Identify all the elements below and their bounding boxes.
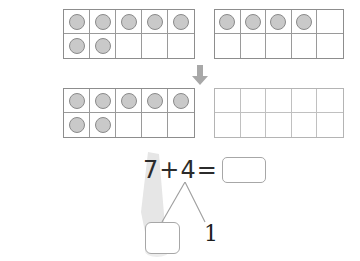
ten-frame-cell[interactable] xyxy=(90,89,116,113)
ten-frame-cell[interactable] xyxy=(215,10,241,34)
equation-sum-input[interactable] xyxy=(222,157,266,183)
counter-chip xyxy=(270,14,286,30)
arrow-down-icon xyxy=(190,64,210,86)
ten-frame-cell[interactable] xyxy=(266,89,292,113)
ten-frame-cell[interactable] xyxy=(90,113,116,137)
counter-chip xyxy=(69,93,85,109)
ten-frame-bottom-right[interactable] xyxy=(214,88,344,138)
ten-frame-cell[interactable] xyxy=(116,10,142,34)
ten-frame-cell[interactable] xyxy=(116,113,142,137)
ten-frame-cell[interactable] xyxy=(116,34,142,58)
counter-chip xyxy=(95,14,111,30)
ten-frame-cell[interactable] xyxy=(64,34,90,58)
equation-plus-sign: + xyxy=(159,158,179,182)
ten-frame-cell[interactable] xyxy=(292,89,318,113)
ten-frame-top-right[interactable] xyxy=(214,9,344,59)
worksheet-canvas: 7 + 4 = 1 xyxy=(0,0,360,261)
counter-chip xyxy=(69,117,85,133)
ten-frame-cell[interactable] xyxy=(64,113,90,137)
ten-frame-cell[interactable] xyxy=(266,113,292,137)
counter-chip xyxy=(69,38,85,54)
ten-frame-cell[interactable] xyxy=(168,34,194,58)
counter-chip xyxy=(147,93,163,109)
ten-frame-cell[interactable] xyxy=(90,10,116,34)
ten-frame-bottom-left[interactable] xyxy=(63,88,195,138)
counter-chip xyxy=(121,93,137,109)
counter-chip xyxy=(95,93,111,109)
ten-frame-cell[interactable] xyxy=(241,10,267,34)
ten-frame-cell[interactable] xyxy=(142,34,168,58)
equation-addend-1: 7 xyxy=(143,158,158,182)
ten-frame-cell[interactable] xyxy=(266,10,292,34)
ten-frame-cell[interactable] xyxy=(168,113,194,137)
ten-frame-cell[interactable] xyxy=(168,89,194,113)
number-bond-connector-lines xyxy=(140,182,230,224)
ten-frame-cell[interactable] xyxy=(292,34,318,58)
ten-frame-cell[interactable] xyxy=(116,89,142,113)
ten-frame-cell[interactable] xyxy=(215,113,241,137)
ten-frame-cell[interactable] xyxy=(292,113,318,137)
ten-frame-cell[interactable] xyxy=(241,34,267,58)
ten-frame-cell[interactable] xyxy=(142,89,168,113)
counter-chip xyxy=(173,93,189,109)
ten-frame-cell[interactable] xyxy=(215,89,241,113)
ten-frame-cell[interactable] xyxy=(168,10,194,34)
number-bond-left-part-input[interactable] xyxy=(145,222,180,254)
ten-frame-cell[interactable] xyxy=(317,34,343,58)
counter-chip xyxy=(121,14,137,30)
counter-chip xyxy=(95,38,111,54)
equation-addend-2: 4 xyxy=(180,158,195,182)
ten-frame-cell[interactable] xyxy=(241,113,267,137)
equation-row: 7 + 4 = xyxy=(143,155,266,185)
counter-chip xyxy=(219,14,235,30)
ten-frame-cell[interactable] xyxy=(241,89,267,113)
counter-chip xyxy=(69,14,85,30)
number-bond-right-part-value: 1 xyxy=(203,221,219,247)
counter-chip xyxy=(95,117,111,133)
ten-frame-cell[interactable] xyxy=(90,34,116,58)
ten-frame-cell[interactable] xyxy=(142,113,168,137)
counter-chip xyxy=(173,14,189,30)
ten-frame-cell[interactable] xyxy=(215,34,241,58)
ten-frame-top-left[interactable] xyxy=(63,9,195,59)
equation-equals-sign: = xyxy=(197,158,217,182)
ten-frame-cell[interactable] xyxy=(317,113,343,137)
counter-chip xyxy=(296,14,312,30)
counter-chip xyxy=(147,14,163,30)
ten-frame-cell[interactable] xyxy=(142,10,168,34)
counter-chip xyxy=(245,14,261,30)
ten-frame-cell[interactable] xyxy=(317,10,343,34)
ten-frame-cell[interactable] xyxy=(64,10,90,34)
ten-frame-cell[interactable] xyxy=(292,10,318,34)
ten-frame-cell[interactable] xyxy=(317,89,343,113)
ten-frame-cell[interactable] xyxy=(64,89,90,113)
ten-frame-cell[interactable] xyxy=(266,34,292,58)
